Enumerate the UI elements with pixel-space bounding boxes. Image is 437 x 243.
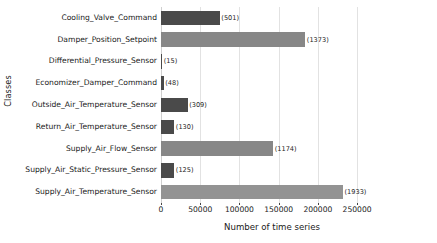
y-tick-label: Differential_Pressure_Sensor — [49, 58, 157, 66]
bar-value-label: (309) — [189, 102, 207, 109]
bar[interactable] — [161, 54, 162, 68]
bar-row: Damper_Position_Setpoint(1373) — [161, 32, 383, 46]
bar-container[interactable]: (309) — [161, 98, 188, 112]
bar-row: Differential_Pressure_Sensor(15) — [161, 54, 383, 68]
x-tick-label: 150000 — [264, 206, 293, 214]
x-tick-label: 200000 — [303, 206, 332, 214]
bar[interactable] — [161, 185, 343, 199]
y-tick-label: Economizer_Damper_Command — [36, 79, 158, 87]
bar-value-label: (125) — [176, 167, 194, 174]
bar[interactable] — [161, 163, 174, 177]
y-tick-label: Supply_Air_Temperature_Sensor — [35, 188, 157, 196]
bar-container[interactable]: (130) — [161, 120, 174, 134]
y-tick-label: Outside_Air_Temperature_Sensor — [32, 101, 157, 109]
bar-row: Return_Air_Temperature_Sensor(130) — [161, 120, 383, 134]
bar-container[interactable]: (15) — [161, 54, 162, 68]
bar[interactable] — [161, 11, 220, 25]
y-tick-label: Damper_Position_Setpoint — [57, 36, 157, 44]
bar[interactable] — [161, 32, 305, 46]
bar-value-label: (1373) — [307, 36, 329, 43]
bar-container[interactable]: (1373) — [161, 32, 305, 46]
x-axis-title: Number of time series — [161, 222, 383, 232]
x-tick-label: 250000 — [343, 206, 372, 214]
bar-chart-figure: Classes Cooling_Valve_Command(501)Damper… — [0, 0, 437, 243]
bar[interactable] — [161, 98, 188, 112]
bar-row: Supply_Air_Static_Pressure_Sensor(125) — [161, 163, 383, 177]
x-tick-label: 100000 — [225, 206, 254, 214]
bar-container[interactable]: (1174) — [161, 141, 273, 155]
bar-row: Cooling_Valve_Command(501) — [161, 11, 383, 25]
bar-value-label: (15) — [164, 58, 178, 65]
bar-row: Supply_Air_Temperature_Sensor(1933) — [161, 185, 383, 199]
bar-row: Outside_Air_Temperature_Sensor(309) — [161, 98, 383, 112]
bar-value-label: (130) — [176, 123, 194, 130]
y-tick-label: Cooling_Valve_Command — [61, 14, 157, 22]
y-tick-label: Return_Air_Temperature_Sensor — [36, 123, 157, 131]
bar-container[interactable]: (48) — [161, 76, 164, 90]
bar[interactable] — [161, 120, 174, 134]
bar-value-label: (501) — [221, 15, 239, 22]
bar-value-label: (48) — [165, 80, 179, 87]
bar-row: Economizer_Damper_Command(48) — [161, 76, 383, 90]
x-axis: 050000100000150000200000250000 — [161, 203, 383, 217]
plot-area: Cooling_Valve_Command(501)Damper_Positio… — [161, 7, 383, 203]
x-tick-label: 50000 — [188, 206, 212, 214]
bar-container[interactable]: (125) — [161, 163, 174, 177]
y-axis-title: Classes — [3, 61, 13, 121]
bar-container[interactable]: (1933) — [161, 185, 343, 199]
bar[interactable] — [161, 141, 273, 155]
bar[interactable] — [161, 76, 164, 90]
bar-value-label: (1933) — [344, 189, 366, 196]
y-tick-label: Supply_Air_Static_Pressure_Sensor — [25, 167, 157, 175]
bar-value-label: (1174) — [275, 145, 297, 152]
x-tick-label: 0 — [159, 206, 164, 214]
y-tick-label: Supply_Air_Flow_Sensor — [66, 145, 157, 153]
bar-row: Supply_Air_Flow_Sensor(1174) — [161, 141, 383, 155]
bar-container[interactable]: (501) — [161, 11, 220, 25]
